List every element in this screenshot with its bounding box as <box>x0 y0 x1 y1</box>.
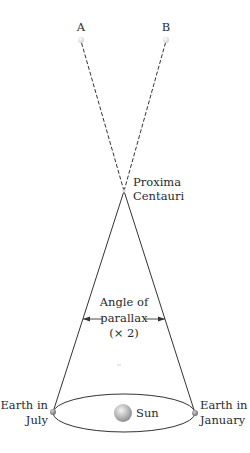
angle-label-line3: (× 2) <box>109 326 139 340</box>
sightline-dashed-b <box>124 41 166 191</box>
sightline-dashed-a <box>81 41 124 191</box>
angle-label-line2: parallax <box>100 311 148 325</box>
earth-july-dot <box>50 409 56 415</box>
angle-label-line1: Angle of <box>99 295 149 309</box>
earth-july-label-line2: July <box>25 413 49 427</box>
sun-icon <box>114 404 132 422</box>
proxima-label-line1: Proxima <box>133 175 181 189</box>
star-a-dot <box>78 37 84 43</box>
sun-label: Sun <box>136 406 159 420</box>
earth-july-label-line1: Earth in <box>0 398 48 412</box>
star-a-label: A <box>76 20 86 34</box>
earth-january-label-line1: Earth in <box>200 398 248 412</box>
earth-january-label-line2: January <box>199 413 246 427</box>
proxima-dot <box>122 189 126 193</box>
proxima-label-line2: Centauri <box>133 189 184 203</box>
earth-january-dot <box>192 410 198 416</box>
star-b-label: B <box>162 20 170 34</box>
star-b-dot <box>163 37 169 43</box>
parallax-diagram: A B Proxima Centauri Angle of parallax (… <box>0 0 250 453</box>
